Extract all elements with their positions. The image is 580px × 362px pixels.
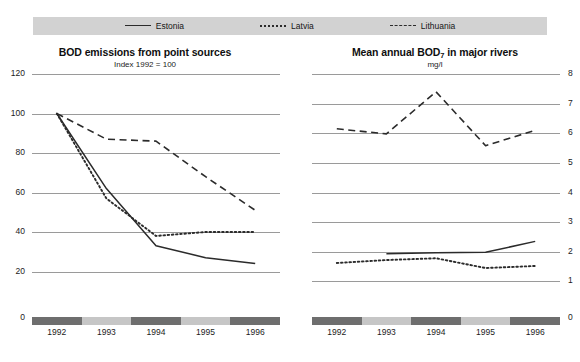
x-axis-band-1992	[312, 317, 362, 325]
chart-title-left: BOD emissions from point sources	[0, 46, 290, 58]
x-axis-label-1992: 1992	[312, 327, 362, 337]
series-line-lithuania	[57, 114, 255, 211]
y-axis-tick-label: 60	[16, 188, 25, 197]
chart-subtitle-left: Index 1992 = 100	[0, 60, 290, 69]
chart-subtitle-right: mg/l	[290, 60, 580, 69]
series-line-estonia	[57, 114, 255, 264]
plot-wrapper-right: 19921993199419951996 012345678	[290, 74, 580, 354]
legend-label-estonia: Estonia	[156, 21, 184, 31]
x-axis-label-1996: 1996	[230, 327, 280, 337]
x-axis-labels-left: 19921993199419951996	[32, 327, 280, 337]
series-line-latvia	[337, 258, 535, 268]
chart-title-right-tail: in major rivers	[444, 46, 518, 58]
x-axis-label-1993: 1993	[362, 327, 412, 337]
y-axis-tick-label: 120	[11, 69, 25, 78]
x-axis-band-1996	[230, 317, 280, 325]
chart-title-right: Mean annual BOD7 in major rivers	[290, 46, 580, 58]
y-axis-tick-label: 0	[20, 313, 25, 322]
legend-label-latvia: Latvia	[291, 21, 314, 31]
series-line-estonia	[386, 241, 535, 253]
x-axis-band-1993	[362, 317, 412, 325]
y-axis-tick-label: 100	[11, 109, 25, 118]
x-axis-band-1992	[32, 317, 82, 325]
y-axis-tick-label: 4	[568, 188, 573, 197]
y-axis-tick-label: 80	[16, 148, 25, 157]
chart-panel-bod7-rivers: Mean annual BOD7 in major rivers mg/l 19…	[290, 46, 580, 354]
line-dashed-icon	[390, 25, 416, 27]
x-axis-label-1992: 1992	[32, 327, 82, 337]
y-axis-tick-label: 7	[568, 99, 573, 108]
y-axis-tick-label: 40	[16, 227, 25, 236]
chart-panel-bod-emissions: BOD emissions from point sources Index 1…	[0, 46, 290, 354]
series-lines-left	[32, 74, 280, 311]
y-axis-tick-label: 6	[568, 128, 573, 137]
legend-item-latvia: Latvia	[260, 21, 314, 31]
x-axis-label-1993: 1993	[82, 327, 132, 337]
x-axis-bands-right	[312, 317, 560, 325]
x-axis-label-1995: 1995	[181, 327, 231, 337]
x-axis-band-1994	[411, 317, 461, 325]
x-axis-label-1996: 1996	[510, 327, 560, 337]
plot-wrapper-left: 19921993199419951996 020406080100120	[0, 74, 290, 354]
y-axis-tick-label: 2	[568, 247, 573, 256]
line-dotted-icon	[260, 25, 286, 28]
x-axis-band-1994	[131, 317, 181, 325]
x-axis-label-1994: 1994	[131, 327, 181, 337]
y-axis-tick-label: 8	[568, 69, 573, 78]
x-axis-label-1994: 1994	[411, 327, 461, 337]
series-line-latvia	[57, 114, 255, 236]
line-solid-icon	[125, 25, 151, 27]
series-line-lithuania	[337, 92, 535, 146]
legend-label-lithuania: Lithuania	[421, 21, 456, 31]
chart-legend: Estonia Latvia Lithuania	[33, 17, 547, 35]
x-axis-band-1995	[461, 317, 511, 325]
chart-title-right-main: Mean annual BOD	[352, 46, 440, 58]
legend-item-lithuania: Lithuania	[390, 21, 456, 31]
series-lines-right	[312, 74, 560, 311]
y-axis-tick-label: 1	[568, 276, 573, 285]
y-axis-tick-label: 20	[16, 267, 25, 276]
x-axis-label-1995: 1995	[461, 327, 511, 337]
x-axis-labels-right: 19921993199419951996	[312, 327, 560, 337]
x-axis-band-1993	[82, 317, 132, 325]
plot-area-right: 19921993199419951996 012345678	[312, 74, 560, 311]
legend-item-estonia: Estonia	[125, 21, 184, 31]
y-axis-tick-label: 5	[568, 158, 573, 167]
y-axis-tick-label: 3	[568, 217, 573, 226]
plot-area-left: 19921993199419951996 020406080100120	[32, 74, 280, 311]
y-axis-tick-label: 0	[568, 313, 573, 322]
chart-title-right-subscript: 7	[440, 51, 444, 60]
x-axis-band-1996	[510, 317, 560, 325]
x-axis-bands-left	[32, 317, 280, 325]
x-axis-band-1995	[181, 317, 231, 325]
